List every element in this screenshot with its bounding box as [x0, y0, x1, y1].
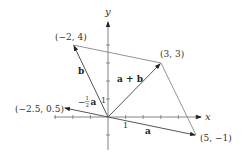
vector-label-a-plus-b: a + b	[117, 74, 143, 84]
vector-a-plus-b	[108, 64, 160, 117]
y-axis-label: y	[104, 6, 111, 17]
vector-diagram: y x 1 1 (−2, 4) (3, 3) (−2.5, 0.5) (5, −…	[0, 0, 242, 155]
vector-label-neg-half-a: − 1 2 a	[78, 95, 97, 108]
unit-label-x: 1	[123, 121, 128, 130]
vector-a	[108, 117, 195, 135]
point-label-neg-half-a: (−2.5, 0.5)	[15, 104, 64, 114]
vector-label-b: b	[78, 66, 84, 76]
vector-neg-half-a	[65, 108, 108, 117]
vector-label-a: a	[145, 126, 151, 136]
point-label-a-plus-b: (3, 3)	[160, 49, 184, 59]
svg-text:1: 1	[86, 95, 90, 101]
unit-label-y: 1	[101, 96, 106, 105]
point-label-b: (−2, 4)	[55, 32, 87, 42]
point-label-a: (5, −1)	[200, 133, 232, 143]
svg-text:a: a	[91, 97, 97, 107]
vectors	[65, 46, 195, 135]
x-axis-label: x	[205, 111, 211, 122]
svg-text:−: −	[78, 97, 86, 107]
svg-text:2: 2	[86, 102, 90, 108]
